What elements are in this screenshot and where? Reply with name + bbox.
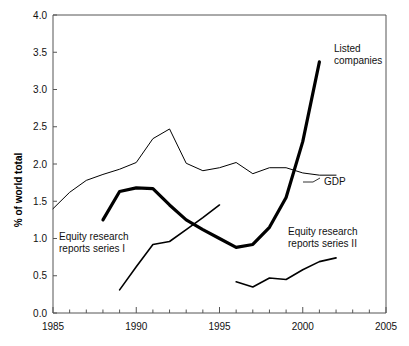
annotation-text-line1: GDP [324, 176, 346, 187]
y-tick-label: 3.0 [33, 84, 47, 95]
annotation-text-line1: Equity research [59, 231, 128, 242]
y-tick-label: 0.5 [33, 270, 47, 281]
annotation-text-line2: reports series II [288, 238, 357, 249]
annotation-gdp: GDP [324, 176, 346, 187]
line-chart: 0.00.51.01.52.02.53.03.54.0 198519901995… [0, 0, 409, 346]
x-tick-label: 1995 [208, 321, 231, 332]
y-tick-label: 1.0 [33, 233, 47, 244]
x-tick-label: 1985 [42, 321, 65, 332]
x-tick-label: 2005 [375, 321, 398, 332]
y-tick-label: 0.0 [33, 308, 47, 319]
y-tick-label: 2.5 [33, 121, 47, 132]
annotation-text-line2: companies [334, 55, 382, 66]
annotation-equity-series-2: Equity researchreports series II [288, 226, 357, 249]
chart-container: 0.00.51.01.52.02.53.03.54.0 198519901995… [0, 0, 409, 346]
y-tick-label: 2.0 [33, 159, 47, 170]
annotation-text-line2: reports series I [59, 243, 125, 254]
annotation-text-line1: Listed [334, 43, 361, 54]
x-tick-label: 2000 [292, 321, 315, 332]
y-tick-label: 3.5 [33, 47, 47, 58]
y-tick-label: 1.5 [33, 196, 47, 207]
annotation-text-line1: Equity research [288, 226, 357, 237]
x-tick-label: 1990 [125, 321, 148, 332]
y-axis-title: % of world total [13, 153, 24, 228]
y-tick-label: 4.0 [33, 10, 47, 21]
annotation-equity-series-1: Equity researchreports series I [59, 231, 128, 254]
